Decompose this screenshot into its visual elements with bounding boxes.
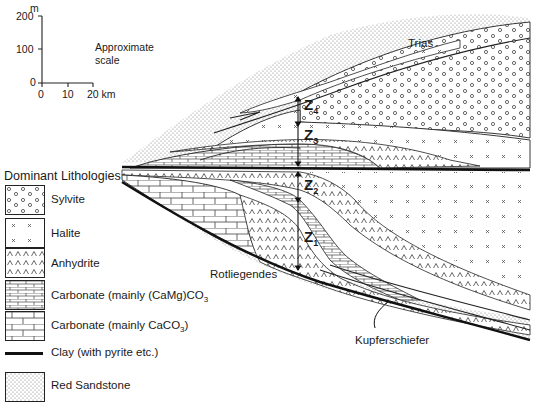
cycle-label-z4: Z4: [304, 96, 318, 116]
legend-label-sylvite: Sylvite: [51, 193, 85, 205]
legend-label-anhydrite: Anhydrite: [51, 257, 100, 269]
legend-swatch-carbonate-caco3: [5, 311, 45, 341]
legend-swatch-clay: [5, 352, 43, 355]
cycle-label-z1: Z1: [304, 228, 318, 248]
legend-label-carbonate-camg: Carbonate (mainly (CaMg)CO3: [51, 289, 208, 304]
legend-swatch-sylvite: [5, 185, 45, 215]
legend-swatch-anhydrite: [5, 248, 45, 278]
label-rotliegendes: Rotliegendes: [210, 268, 277, 280]
legend-label-halite: Halite: [51, 227, 80, 239]
cycle-label-z3: Z3: [304, 126, 318, 146]
legend-title: Dominant Lithologies: [4, 169, 121, 183]
label-trias: Trias: [408, 37, 433, 49]
legend-label-carbonate-caco3: Carbonate (mainly CaCO3): [51, 319, 188, 334]
legend-label-red-sandstone: Red Sandstone: [51, 379, 130, 391]
legend-swatch-red-sandstone: [5, 372, 45, 402]
legend-swatch-halite: [5, 218, 45, 248]
label-kupferschiefer: Kupferschiefer: [355, 334, 429, 346]
legend-swatch-carbonate-camg: [5, 280, 45, 310]
legend-label-clay: Clay (with pyrite etc.): [51, 346, 158, 358]
cycle-label-z2: Z2: [304, 176, 318, 196]
